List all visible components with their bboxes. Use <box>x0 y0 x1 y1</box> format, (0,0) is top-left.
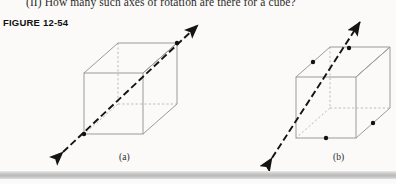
cube-a-vertex-marker-back <box>175 41 179 45</box>
cube-b-edge-marker-top-back <box>347 46 351 50</box>
figure-caption-a: (a) <box>119 152 130 162</box>
bottom-divider-bar <box>0 171 396 179</box>
cube-b-edge-marker-bottom-front <box>324 136 328 140</box>
cube-b <box>272 22 390 158</box>
cube-b-hidden-edges <box>296 47 390 138</box>
figure-page: (II) How many such axes of rotation are … <box>0 0 396 184</box>
cube-b-edge-marker-top-left <box>311 60 315 64</box>
cube-a <box>63 25 198 152</box>
cube-b-edge-marker-bottom-right <box>371 121 375 125</box>
cube-b-visible-edges <box>296 47 390 138</box>
cube-a-vertex-marker-front <box>82 132 86 136</box>
bottom-margin <box>0 179 396 184</box>
figure-caption-b: (b) <box>333 152 344 162</box>
